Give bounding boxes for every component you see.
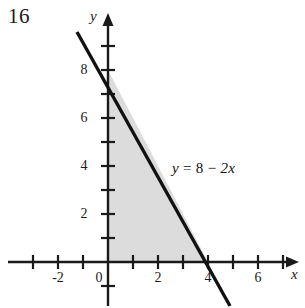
equation-equals: = [183, 160, 192, 176]
y-tick-label-6: 6 [74, 110, 94, 126]
x-tick-label-4: 4 [198, 270, 218, 286]
x-tick-label-0: 0 [89, 270, 109, 286]
equation-lhs: y [172, 160, 179, 176]
equation-annotation: y = 8 − 2x [172, 160, 235, 177]
x-tick-label-6: 6 [248, 270, 268, 286]
graph-figure: 16 [0, 0, 305, 308]
x-tick-label-neg2: -2 [48, 270, 68, 286]
y-axis-arrowhead [103, 13, 114, 26]
x-axis-label: x [291, 266, 298, 283]
x-tick-label-2: 2 [148, 270, 168, 286]
y-tick-label-8: 8 [74, 62, 94, 78]
equation-intercept: 8 [196, 160, 204, 176]
y-tick-label-4: 4 [74, 158, 94, 174]
equation-minus: − [208, 160, 217, 176]
coordinate-plane-svg [0, 0, 305, 308]
y-tick-label-2: 2 [74, 206, 94, 222]
equation-slope-term: 2x [221, 160, 236, 176]
y-axis-label: y [90, 8, 97, 25]
